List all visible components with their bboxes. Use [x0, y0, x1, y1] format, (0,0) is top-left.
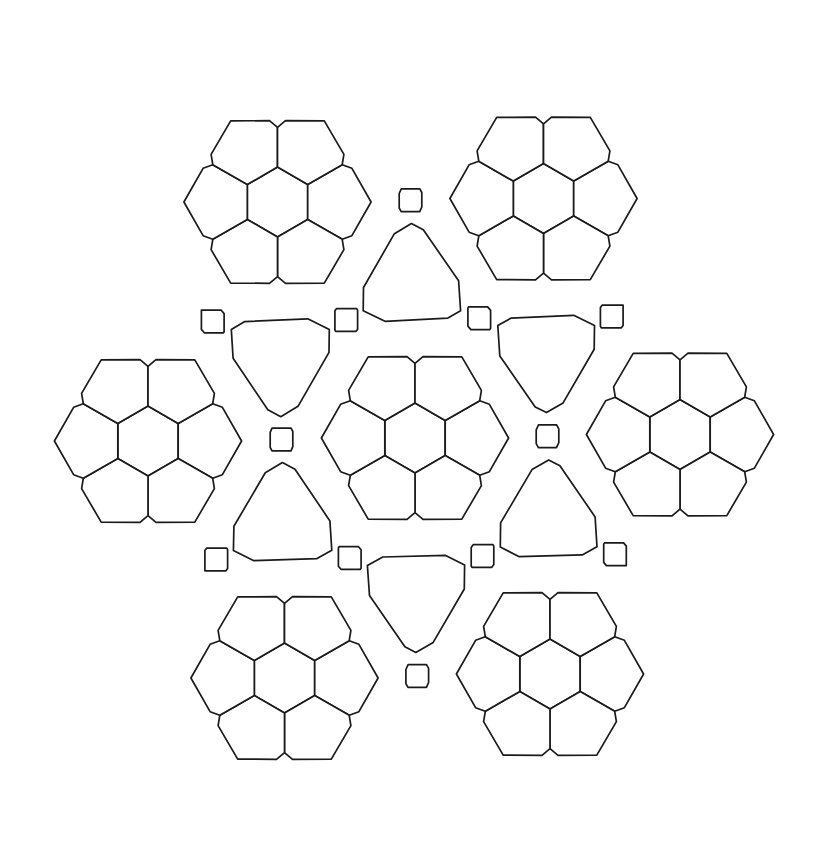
- tiling-diagram: [0, 0, 833, 864]
- square-tile: [205, 548, 228, 571]
- square-tile: [399, 189, 422, 212]
- decagon-tile: [500, 460, 597, 557]
- tiles-group: [54, 117, 773, 759]
- square-tile: [604, 543, 627, 566]
- square-tile: [468, 307, 491, 330]
- square-tile: [536, 425, 559, 448]
- square-tile: [471, 545, 494, 568]
- square-tile: [406, 665, 429, 688]
- decagon-tile: [233, 463, 331, 561]
- square-tile: [600, 305, 623, 328]
- square-tile: [201, 310, 224, 333]
- decagon-tile: [231, 319, 329, 417]
- square-tile: [270, 428, 293, 451]
- square-tile: [335, 309, 358, 332]
- square-tile: [338, 547, 361, 570]
- decagon-tile: [367, 555, 464, 652]
- decagon-tile: [498, 315, 595, 412]
- decagon-tile: [363, 224, 460, 322]
